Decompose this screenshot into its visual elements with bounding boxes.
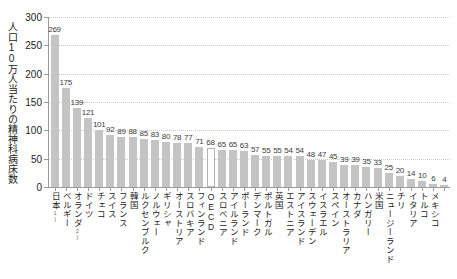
x-axis-category-label: ノルウェー [150, 192, 159, 237]
bar-rect [251, 155, 259, 187]
y-tick-mark [44, 159, 48, 160]
x-tick-mark [144, 188, 145, 191]
bar-rect [396, 176, 404, 187]
bar: 25 [385, 173, 393, 187]
bar-value-label: 92 [106, 125, 114, 134]
x-axis-category-label: トルコ [418, 192, 427, 219]
x-axis-category-label: オランダ2) [72, 192, 81, 240]
y-tick-label: 0 [36, 182, 42, 193]
x-tick-mark [211, 188, 212, 191]
x-axis-category-label: フランス [117, 192, 126, 228]
x-tick-mark [77, 188, 78, 191]
x-tick-mark [244, 188, 245, 191]
bar-rect [307, 160, 315, 187]
x-axis-category-label: 韓国 [128, 192, 137, 210]
bar: 4 [440, 185, 448, 187]
x-axis-category-label: ポーランド [239, 192, 248, 237]
bar: 139 [73, 108, 81, 187]
bar: 35 [362, 167, 370, 187]
y-tick-label: 50 [31, 153, 42, 164]
bar-value-label: 121 [82, 108, 94, 117]
x-axis-category-label: ドイツ [83, 192, 92, 219]
x-axis-category-label: アイルランド [228, 192, 237, 246]
bar-rect [162, 142, 170, 187]
bar-rect [340, 165, 348, 187]
x-axis-category-label: ルクセンブルク [139, 192, 148, 255]
bar-value-label: 55 [273, 146, 281, 155]
bar-rect [407, 179, 415, 187]
x-tick-mark [300, 188, 301, 191]
bar-value-label: 88 [128, 127, 136, 136]
bar: 39 [351, 165, 359, 187]
bar-value-label: 63 [240, 141, 248, 150]
x-axis-category-label: OECD [206, 192, 215, 232]
bar: 63 [240, 151, 248, 187]
x-tick-mark [155, 188, 156, 191]
bar-value-label: 65 [217, 140, 225, 149]
x-tick-mark [55, 188, 56, 191]
x-tick-mark [400, 188, 401, 191]
y-tick-mark [44, 45, 48, 46]
x-axis-category-label: チリ [395, 192, 404, 210]
footnote-marker: 2) [74, 228, 80, 240]
x-tick-mark [366, 188, 367, 191]
x-axis-category-label: ポルトガル [262, 192, 271, 237]
bar-rect [418, 181, 426, 187]
bar-rect [95, 130, 103, 187]
x-tick-mark [166, 188, 167, 191]
bar-value-label: 269 [48, 25, 60, 34]
x-axis-category-label: イタリア [407, 192, 416, 228]
x-tick-mark [177, 188, 178, 191]
bar-rect [429, 184, 437, 187]
bar: 55 [262, 156, 270, 187]
x-axis-category-label: チェコ [95, 192, 104, 219]
bar-rect [262, 156, 270, 187]
x-axis-category-label: イスラエル [317, 192, 326, 237]
bar: 65 [218, 150, 226, 187]
x-tick-mark [311, 188, 312, 191]
bar-rect [385, 173, 393, 187]
x-tick-mark [266, 188, 267, 191]
bar-rect [195, 147, 203, 187]
bar-value-label: 25 [385, 163, 393, 172]
x-axis-category-label: ハンガリー [362, 192, 371, 237]
bar-rect [129, 137, 137, 187]
bar: 10 [418, 181, 426, 187]
x-axis-category-label: 米国 [373, 192, 382, 210]
bars-layer: 2691751391211019289888583807877716865656… [49, 17, 450, 188]
y-tick-label: 100 [25, 125, 42, 136]
bar: 78 [173, 143, 181, 187]
bar: 88 [129, 137, 137, 187]
bar-value-label: 78 [173, 133, 181, 142]
bar-value-label: 10 [418, 171, 426, 180]
bar-value-label: 20 [396, 166, 404, 175]
bar-value-label: 48 [307, 150, 315, 159]
x-tick-mark [66, 188, 67, 191]
x-axis-category-label: スペイン [329, 192, 338, 228]
x-tick-mark [288, 188, 289, 191]
bar-value-label: 45 [329, 152, 337, 161]
y-tick-label: 250 [25, 40, 42, 51]
y-tick-mark [44, 102, 48, 103]
bar: 65 [229, 150, 237, 187]
bar-value-label: 55 [262, 146, 270, 155]
y-tick-label: 150 [25, 97, 42, 108]
bar: 33 [374, 168, 382, 187]
x-tick-mark [133, 188, 134, 191]
bar: 54 [284, 156, 292, 187]
x-tick-mark [333, 188, 334, 191]
x-tick-mark [433, 188, 434, 191]
x-tick-mark [389, 188, 390, 191]
bar-rect [51, 35, 59, 187]
bar: 101 [95, 130, 103, 187]
y-axis-title: 人口10万人当たりの精神科病床数 [2, 18, 17, 188]
bar-rect [296, 156, 304, 187]
x-axis-category-label: オーストラリア [340, 192, 349, 255]
y-tick-label: 200 [25, 68, 42, 79]
x-axis-category-label: カナダ [351, 192, 360, 219]
bar: 175 [62, 88, 70, 187]
x-axis-category-label: ベルギー [61, 192, 70, 228]
bar: 57 [251, 155, 259, 187]
bar: 89 [117, 137, 125, 187]
bar-value-label: 54 [295, 146, 303, 155]
